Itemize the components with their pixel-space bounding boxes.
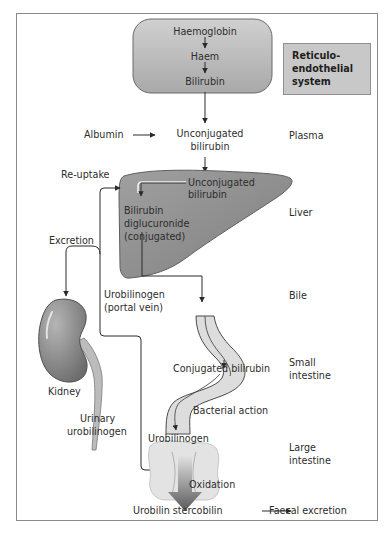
conjugated-line-2: diglucuronide xyxy=(124,218,189,230)
excretion-label: Excretion xyxy=(49,235,94,247)
re-uptake-label: Re-uptake xyxy=(61,169,110,181)
albumin-label: Albumin xyxy=(84,129,124,141)
urobilinogen-portal-line-1: Urobilinogen xyxy=(104,289,165,301)
bacterial-action-label: Bacterial action xyxy=(193,405,268,417)
urobilinogen-li-label: Urobilinogen xyxy=(148,433,209,445)
zone-large-intestine-line-1: Large xyxy=(289,442,316,454)
conjugated-bilirubin-si-label: Conjugated bilirubin xyxy=(173,363,270,375)
conjugated-line-3: (conjugated) xyxy=(124,231,185,243)
conjugated-line-1: Bilirubin xyxy=(124,205,163,217)
re-box-line-1: Reticulo- xyxy=(292,49,370,62)
re-box-line-2: endothelial xyxy=(292,62,370,75)
urinary-line-2: urobilinogen xyxy=(67,426,127,438)
haemoglobin-label: Haemoglobin xyxy=(173,26,237,38)
urinary-line-1: Urinary xyxy=(80,413,115,425)
bilirubin-re-label: Bilirubin xyxy=(185,76,224,88)
unconjugated-liver-line-1: Unconjugated xyxy=(188,177,255,189)
large-intestine-shape xyxy=(149,441,220,511)
haem-label: Haem xyxy=(191,51,219,63)
re-box-line-3: system xyxy=(292,75,370,88)
unconjugated-plasma-line-2: bilirubin xyxy=(191,141,230,153)
urobilinogen-portal-line-2: (portal vein) xyxy=(104,302,163,314)
kidney-label: Kidney xyxy=(48,386,81,398)
zone-large-intestine-line-2: intestine xyxy=(289,455,331,467)
zone-small-intestine-line-2: intestine xyxy=(289,370,331,382)
zone-bile: Bile xyxy=(289,290,307,302)
unconjugated-plasma-line-1: Unconjugated xyxy=(177,128,244,140)
zone-small-intestine-line-1: Small xyxy=(289,357,316,369)
zone-plasma: Plasma xyxy=(289,130,324,142)
unconjugated-liver-line-2: bilirubin xyxy=(188,189,227,201)
oxidation-label: Oxidation xyxy=(189,479,235,491)
faecal-excretion-label: Faecal excretion xyxy=(269,505,347,517)
zone-liver: Liver xyxy=(289,207,313,219)
reticuloendothelial-system-box: Reticulo- endothelial system xyxy=(283,43,371,95)
urobilin-stercobilin-label: Urobilin stercobilin xyxy=(133,505,223,517)
